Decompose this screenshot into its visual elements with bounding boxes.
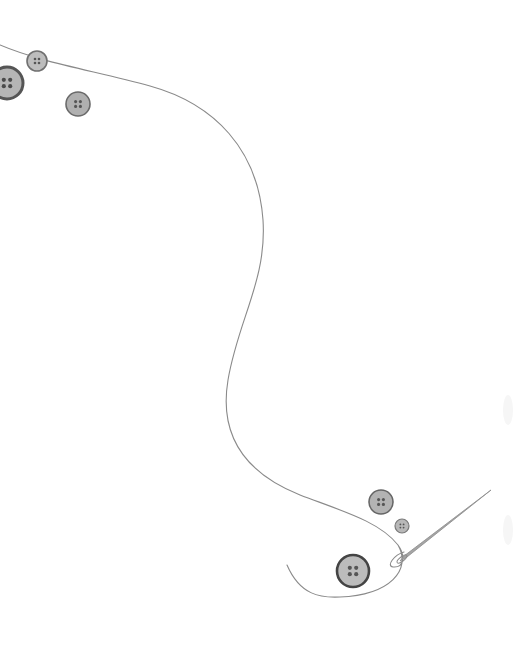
button-top-large-icon — [0, 67, 23, 99]
faint-edge-mark — [503, 395, 513, 425]
button-bottom-medium-icon — [369, 490, 393, 514]
button-bottom-large-icon — [337, 555, 369, 587]
button-top-small-icon — [27, 51, 47, 71]
thread — [0, 45, 404, 597]
button-top-medium-icon — [66, 92, 90, 116]
button-bottom-small-icon — [395, 519, 409, 533]
faint-edge-mark — [503, 515, 513, 545]
needle-icon — [396, 490, 491, 564]
